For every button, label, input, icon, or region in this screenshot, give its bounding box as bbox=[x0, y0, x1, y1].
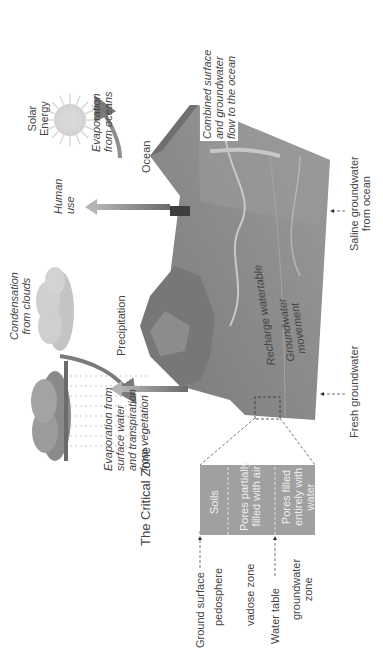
soils-layer-label: Soils bbox=[208, 490, 220, 514]
pedosphere-label: pedosphere bbox=[212, 568, 224, 626]
condensation-label: Condensationfrom clouds bbox=[8, 272, 32, 340]
groundwater-zone-label: groundwaterzone bbox=[290, 559, 314, 620]
ground-surface-label: Ground surface bbox=[194, 572, 206, 648]
pores-water-layer-label: Pores filledentirely withwater bbox=[280, 468, 316, 526]
terrain-block bbox=[140, 105, 330, 420]
solar-energy-label: SolarEnergy bbox=[26, 101, 50, 136]
vadose-zone-label: vadose zone bbox=[244, 564, 256, 626]
critical-zone-title: The Critical Zone bbox=[140, 447, 152, 546]
diagram-graphics bbox=[0, 0, 383, 656]
water-table-label: Water table bbox=[269, 588, 281, 644]
ocean-label: Ocean bbox=[140, 141, 152, 173]
evaporation-oceans-label: Evaporationfrom oceans bbox=[90, 91, 114, 152]
fresh-groundwater-label: Fresh groundwater bbox=[348, 346, 360, 438]
human-use-arrow bbox=[85, 199, 170, 215]
combined-flow-label: Combined surfaceand groundwaterflow to t… bbox=[200, 48, 238, 141]
rain-cloud-icon bbox=[31, 361, 71, 461]
condensation-cloud-icon bbox=[36, 267, 74, 351]
sun-icon bbox=[44, 94, 96, 146]
water-cycle-diagram: SolarEnergy Evaporationfrom oceans Ocean… bbox=[0, 0, 383, 656]
precipitation-label: Precipitation bbox=[115, 295, 127, 356]
pores-air-layer-label: Pores partiallyfilled with air bbox=[238, 461, 262, 531]
saline-groundwater-label: Saline groundwaterfrom ocean bbox=[348, 156, 372, 251]
human-use-label: Humanuse bbox=[52, 179, 76, 214]
